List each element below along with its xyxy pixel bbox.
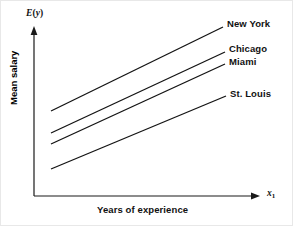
series-line-chicago: [51, 52, 225, 133]
y-axis-symbol-close-paren: ): [40, 8, 43, 18]
chart-figure: E(y) x1 Mean salary Years of experience …: [0, 0, 293, 226]
series-label-st-louis: St. Louis: [230, 89, 271, 99]
y-axis-arrowhead: [31, 26, 38, 35]
y-axis-title: Mean salary: [8, 51, 19, 105]
x-axis-symbol: x1: [267, 189, 275, 200]
y-axis-symbol: E(y): [26, 9, 43, 19]
series-line-new-york: [51, 27, 223, 111]
series-label-new-york: New York: [227, 19, 270, 29]
series-label-miami: Miami: [229, 57, 256, 67]
y-axis-title-wrapper: Mean salary: [5, 25, 19, 105]
x-axis-symbol-subscript: 1: [272, 192, 276, 200]
chart-canvas: [1, 1, 293, 226]
x-axis-title: Years of experience: [97, 205, 188, 215]
series-label-chicago: Chicago: [229, 44, 267, 54]
x-axis-arrowhead: [251, 193, 260, 200]
